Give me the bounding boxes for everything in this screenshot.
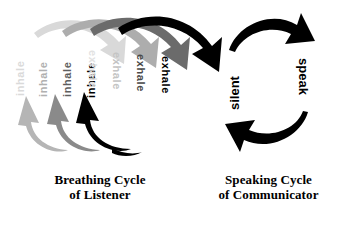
breathing-cycle-panel: inhale inhale inhale inhale exhale exhal… (0, 0, 200, 225)
inhale-label-1: inhale (15, 61, 26, 96)
inhale-arc-2 (47, 94, 100, 151)
speaking-cycle-panel: silent speak Speaking Cycle of Communica… (200, 0, 337, 225)
breathing-caption-line-1: Breathing Cycle (0, 172, 200, 187)
speaking-cycle-caption: Speaking Cycle of Communicator (200, 172, 337, 202)
exhale-label-1: exhale (87, 50, 98, 88)
breathing-caption-line-2: of Listener (0, 187, 200, 202)
speak-label: speak (297, 58, 310, 95)
speak-arrow-top (229, 13, 315, 52)
breathing-cycle-diagram: inhale inhale inhale inhale exhale exhal… (0, 0, 200, 168)
speaking-caption-line-2: of Communicator (200, 187, 337, 202)
exhale-label-4: exhale (160, 56, 171, 94)
inhale-label-2: inhale (38, 62, 49, 97)
speaking-arrows-svg (200, 0, 337, 168)
breathing-cycle-caption: Breathing Cycle of Listener (0, 172, 200, 202)
silent-label: silent (228, 76, 241, 110)
silent-arrow-bottom (225, 111, 308, 152)
exhale-label-3: exhale (135, 54, 146, 92)
speaking-caption-line-1: Speaking Cycle (200, 172, 337, 187)
figure-canvas: inhale inhale inhale inhale exhale exhal… (0, 0, 337, 225)
inhale-label-3: inhale (62, 62, 73, 97)
inhale-arc-3 (76, 92, 131, 151)
speaking-cycle-diagram: silent speak (200, 0, 337, 168)
exhale-label-2: exhale (111, 52, 122, 90)
